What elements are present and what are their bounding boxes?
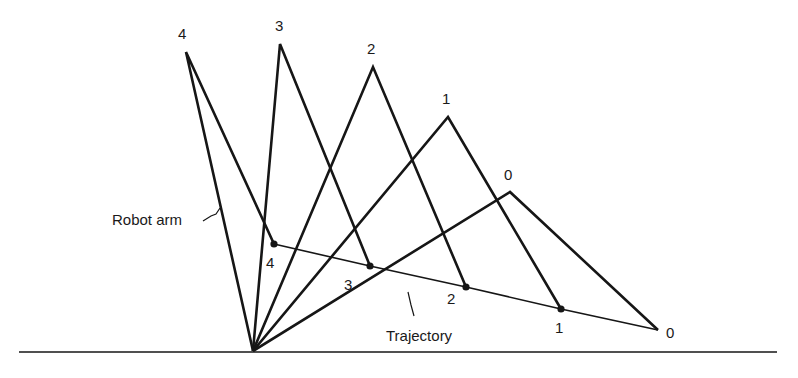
trajectory-point-label-3: 3 <box>344 276 352 293</box>
trajectory-point-label-1: 1 <box>555 319 563 336</box>
trajectory-point-marker <box>557 305 564 312</box>
robot-arm-position-4 <box>186 52 274 351</box>
trajectory-point-marker <box>366 262 373 269</box>
robot-arm-label: Robot arm <box>112 211 182 228</box>
position-labels: 0011223344 <box>178 17 674 341</box>
robot-arm-position-0 <box>253 192 658 351</box>
elbow-label-2: 2 <box>367 40 375 57</box>
elbow-label-0: 0 <box>504 166 512 183</box>
trajectory-point-label-4: 4 <box>266 254 274 271</box>
robot-arm-positions <box>186 44 658 351</box>
trajectory-label: Trajectory <box>386 327 453 344</box>
robot-arm-position-2 <box>253 67 466 351</box>
elbow-label-1: 1 <box>442 90 450 107</box>
robot-arm-leader-line <box>203 208 220 221</box>
trajectory-point-marker <box>462 283 469 290</box>
trajectory-point-label-0: 0 <box>666 324 674 341</box>
trajectory-point-marker <box>270 240 277 247</box>
robot-arm-trajectory-diagram: 0011223344 Robot arm Trajectory <box>0 0 798 378</box>
robot-arm-position-3 <box>253 44 370 351</box>
elbow-label-3: 3 <box>275 17 283 34</box>
elbow-label-4: 4 <box>178 25 186 42</box>
robot-arm-position-1 <box>253 117 561 351</box>
trajectory-leader-line <box>408 292 414 316</box>
trajectory-point-label-2: 2 <box>447 290 455 307</box>
